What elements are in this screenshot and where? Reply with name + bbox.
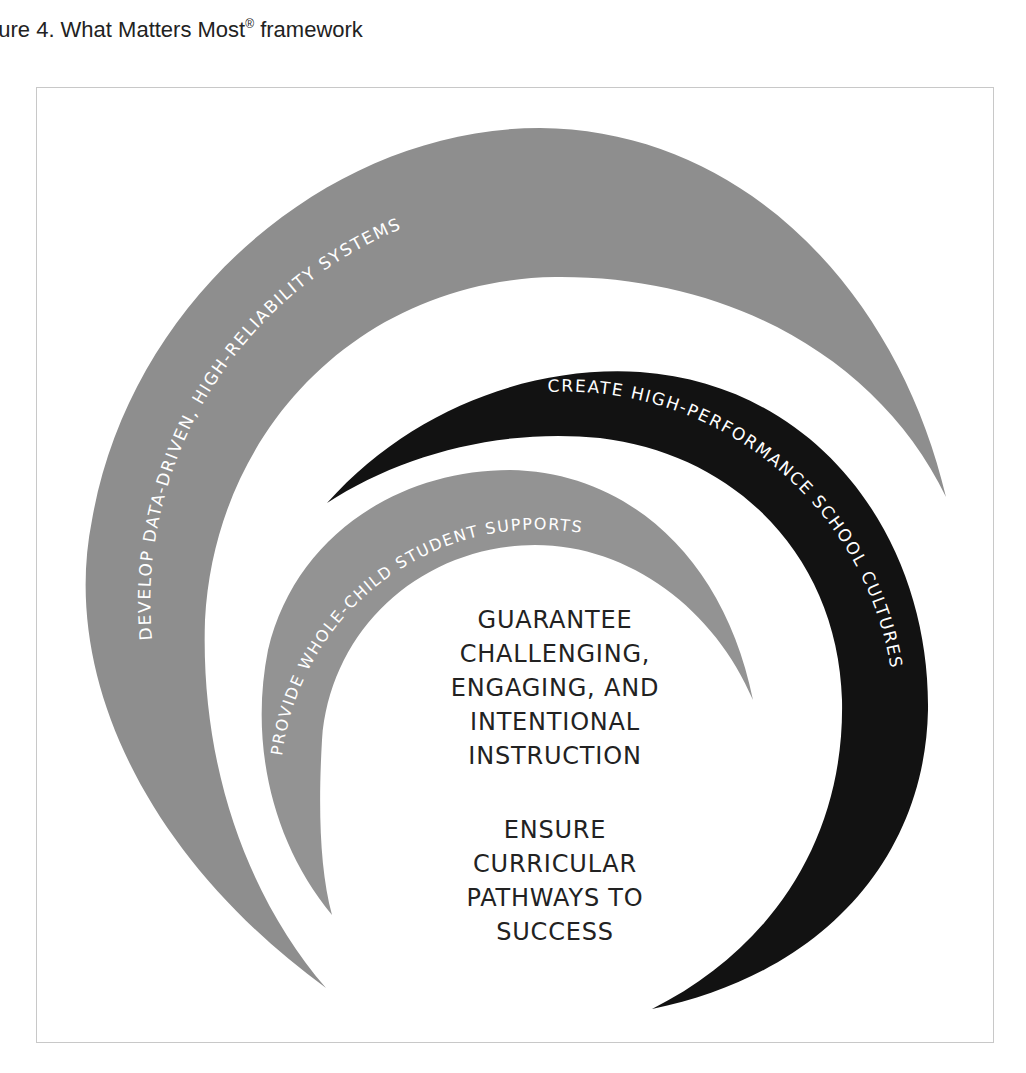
center-line: CHALLENGING, (380, 637, 730, 671)
center-instruction-text: GUARANTEE CHALLENGING, ENGAGING, AND INT… (380, 603, 730, 773)
center-pathways-text: ENSURE CURRICULAR PATHWAYS TO SUCCESS (380, 813, 730, 949)
center-line: INTENTIONAL (380, 705, 730, 739)
center-line: SUCCESS (380, 915, 730, 949)
center-line: CURRICULAR (380, 847, 730, 881)
center-line: ENSURE (380, 813, 730, 847)
center-line: GUARANTEE (380, 603, 730, 637)
center-line: PATHWAYS TO (380, 881, 730, 915)
center-line: ENGAGING, AND (380, 671, 730, 705)
center-line: INSTRUCTION (380, 739, 730, 773)
